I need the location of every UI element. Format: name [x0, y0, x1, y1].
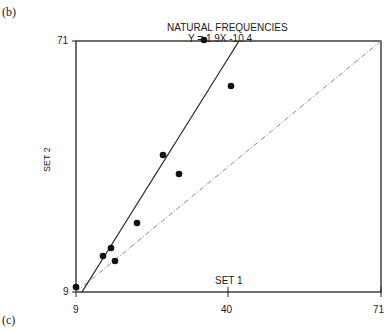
identity-line	[76, 41, 381, 292]
plot-area	[0, 0, 389, 331]
data-points	[73, 37, 235, 291]
